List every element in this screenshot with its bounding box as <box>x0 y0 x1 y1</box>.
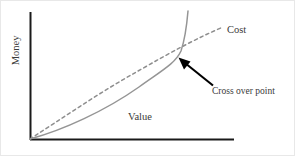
chart-figure: Money Cost Value Cross over point <box>0 0 295 156</box>
value-curve <box>30 11 188 139</box>
y-axis-label: Money <box>11 51 22 65</box>
crossover-arrow <box>179 58 214 86</box>
crossover-point-label: Cross over point <box>212 87 275 97</box>
chart-canvas <box>1 1 295 156</box>
cost-curve <box>30 27 223 139</box>
y-axis-label-text: Money <box>11 51 22 65</box>
cost-series-label: Cost <box>227 25 246 36</box>
value-series-label: Value <box>128 112 152 123</box>
